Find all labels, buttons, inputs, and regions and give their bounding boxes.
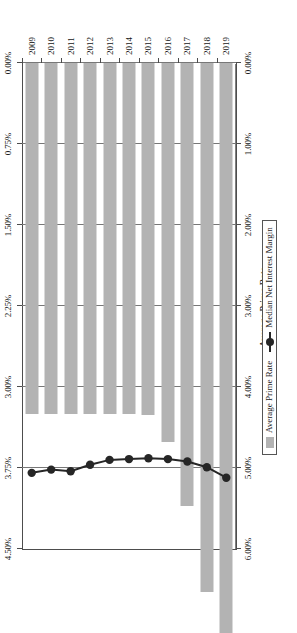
primary-axis-tick-label: 2.00%	[243, 214, 253, 236]
category-axis-label: 2010	[46, 37, 56, 55]
category-axis-tick	[61, 58, 62, 63]
axis-line-top	[22, 63, 23, 550]
category-axis-label: 2018	[202, 37, 212, 55]
primary-axis-tick-label: 0.00%	[243, 52, 253, 74]
category-axis-label: 2013	[105, 37, 115, 55]
primary-axis-tick-label: 6.00%	[243, 538, 253, 560]
bar	[142, 63, 155, 415]
category-axis-tick	[178, 58, 179, 63]
category-axis-tick	[100, 58, 101, 63]
secondary-axis-tick-label: 0.75%	[3, 133, 13, 155]
secondary-axis-tick-label: 1.50%	[3, 214, 13, 236]
category-axis-tick	[22, 58, 23, 63]
axis-tick	[236, 548, 241, 549]
category-axis-tick	[217, 58, 218, 63]
bar	[25, 63, 38, 414]
category-axis-tick	[41, 58, 42, 63]
axis-line-bottom	[236, 63, 237, 550]
axis-tick	[17, 548, 22, 549]
legend-entry-average-prime-rate[interactable]: Average Prime Rate	[265, 361, 274, 448]
bar	[84, 63, 97, 414]
bar	[123, 63, 136, 414]
line-marker-icon	[266, 332, 274, 352]
category-axis-label: 2017	[182, 37, 192, 55]
axis-tick	[17, 467, 22, 468]
secondary-axis-tick-label: 4.50%	[3, 538, 13, 560]
category-axis-label: 2019	[221, 37, 231, 55]
primary-axis-tick-label: 4.00%	[243, 376, 253, 398]
bar-swatch-icon	[266, 437, 274, 448]
secondary-axis-tick-label: 3.75%	[3, 457, 13, 479]
legend-label-median-net-interest-margin: Median Net Interest Margin	[265, 227, 274, 328]
bar	[103, 63, 116, 414]
axis-tick	[236, 224, 241, 225]
secondary-axis-tick-label: 2.25%	[3, 295, 13, 317]
category-axis-tick	[139, 58, 140, 63]
bar	[181, 63, 194, 506]
bar	[220, 63, 233, 633]
axis-tick	[236, 305, 241, 306]
category-axis-tick	[80, 58, 81, 63]
bar	[64, 63, 77, 414]
bar	[45, 63, 58, 414]
secondary-axis-tick-label: 0.00%	[3, 52, 13, 74]
primary-axis-tick-label: 3.00%	[243, 295, 253, 317]
category-axis-label: 2015	[143, 37, 153, 55]
legend-label-average-prime-rate: Average Prime Rate	[265, 361, 274, 433]
bar	[200, 63, 213, 592]
category-axis-tick	[197, 58, 198, 63]
axis-tick	[17, 386, 22, 387]
axis-tick	[236, 143, 241, 144]
axis-tick	[17, 305, 22, 306]
category-axis-label: 2011	[66, 37, 76, 55]
legend-entry-median-net-interest-margin[interactable]: Median Net Interest Margin	[265, 227, 274, 352]
category-axis-label: 2009	[27, 37, 37, 55]
category-axis-label: 2016	[163, 37, 173, 55]
category-axis-label: 2014	[124, 37, 134, 55]
axis-tick	[236, 467, 241, 468]
bar	[161, 63, 174, 442]
secondary-axis-tick-label: 3.00%	[3, 376, 13, 398]
category-axis-tick	[119, 58, 120, 63]
category-axis-label: 2012	[85, 37, 95, 55]
axis-tick	[17, 224, 22, 225]
axis-tick	[236, 386, 241, 387]
chart-legend: Average Prime Rate Median Net Interest M…	[262, 220, 277, 455]
axis-tick	[236, 62, 241, 63]
category-axis-tick	[158, 58, 159, 63]
primary-axis-tick-label: 5.00%	[243, 457, 253, 479]
axis-tick	[17, 143, 22, 144]
primary-axis-tick-label: 1.00%	[243, 133, 253, 155]
